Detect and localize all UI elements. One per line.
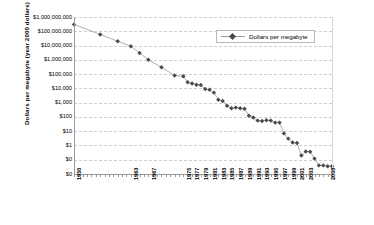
x-axis-tick — [100, 174, 101, 177]
y-axis-line — [74, 17, 75, 175]
x-axis-tick — [192, 174, 193, 177]
x-axis-tick-label: 1995 — [273, 168, 279, 180]
x-axis-tick — [201, 174, 202, 177]
x-axis-tick-label: 1985 — [229, 168, 235, 180]
y-axis-tick-label: $10 — [4, 128, 72, 134]
plot-right-border — [332, 17, 333, 175]
y-axis-tick-label: $0 — [4, 171, 72, 177]
data-point-marker — [216, 98, 220, 102]
x-axis-tick-label: 1997 — [282, 168, 288, 180]
y-axis-tick-label: $1,000,000,000 — [4, 14, 72, 20]
x-axis-tick-label: 1967 — [151, 168, 157, 180]
x-axis-tick — [253, 174, 254, 177]
x-axis-tick-label: 1983 — [221, 168, 227, 180]
x-axis-tick — [166, 174, 167, 177]
data-point-marker — [238, 106, 242, 110]
x-axis-tick — [179, 174, 180, 177]
x-axis-tick — [161, 174, 162, 177]
data-point-marker — [116, 39, 120, 43]
x-axis-tick — [328, 174, 329, 177]
legend: Dollars per megabyte — [216, 30, 315, 43]
x-axis-tick — [83, 174, 84, 177]
x-axis-tick — [315, 174, 316, 177]
x-axis-tick-label: 2001 — [299, 168, 305, 180]
x-axis-tick — [262, 174, 263, 177]
data-point-marker — [269, 118, 273, 122]
x-axis-tick-label: 1981 — [212, 168, 218, 180]
x-axis-tick — [118, 174, 119, 177]
x-axis-tick — [319, 174, 320, 177]
x-axis-tick — [96, 174, 97, 177]
x-axis-tick — [140, 174, 141, 177]
data-point-marker — [264, 118, 268, 122]
x-axis-tick-label: 1963 — [133, 168, 139, 180]
data-point-marker — [98, 32, 102, 36]
data-point-marker — [207, 88, 211, 92]
x-axis-tick-label: 1979 — [203, 168, 209, 180]
x-axis-tick — [170, 174, 171, 177]
data-point-marker — [172, 73, 176, 77]
x-axis-tick — [236, 174, 237, 177]
y-axis-tick-labels: $1,000,000,000$100,000,000$10,000,000$1,… — [0, 17, 72, 175]
x-axis-tick — [280, 174, 281, 177]
legend-label: Dollars per megabyte — [249, 33, 308, 40]
x-axis-tick — [227, 174, 228, 177]
data-point-marker — [212, 90, 216, 94]
y-axis-tick-label: $100,000 — [4, 71, 72, 77]
y-axis-tick-label: $10,000,000 — [4, 42, 72, 48]
data-point-marker — [277, 120, 281, 124]
x-axis-tick-label: 1975 — [186, 168, 192, 180]
data-point-marker — [247, 114, 251, 118]
data-point-marker — [234, 105, 238, 109]
x-axis-tick — [271, 174, 272, 177]
x-axis-tick — [210, 174, 211, 177]
x-axis-tick-label: 1987 — [238, 168, 244, 180]
data-point-marker — [159, 65, 163, 69]
x-axis-tick-label: 1993 — [264, 168, 270, 180]
x-axis-tick-label: 1977 — [194, 168, 200, 180]
data-point-marker — [229, 106, 233, 110]
x-axis-tick-label: 1989 — [247, 168, 253, 180]
x-axis-tick — [218, 174, 219, 177]
x-axis-tick — [122, 174, 123, 177]
x-axis-tick — [245, 174, 246, 177]
x-axis-tick-label: 1991 — [256, 168, 262, 180]
x-axis-tick — [105, 174, 106, 177]
y-axis-tick-label: $1 — [4, 142, 72, 148]
diamond-marker-icon — [229, 33, 236, 40]
x-axis-tick — [113, 174, 114, 177]
x-axis-tick-label: 2003 — [308, 168, 314, 180]
data-point-marker — [295, 141, 299, 145]
data-point-marker — [308, 150, 312, 154]
data-point-marker — [312, 156, 316, 160]
x-axis-tick — [131, 174, 132, 177]
data-point-marker — [321, 163, 325, 167]
x-axis-tick-label: 2008 — [330, 168, 336, 180]
x-axis-tick — [87, 174, 88, 177]
x-axis-tick — [148, 174, 149, 177]
x-axis-tick — [74, 174, 75, 177]
x-axis-tick — [109, 174, 110, 177]
series-line — [74, 24, 332, 166]
y-axis-tick-label: $10,000 — [4, 85, 72, 91]
x-axis-tick — [323, 174, 324, 177]
x-axis-tick — [288, 174, 289, 177]
data-point-marker — [194, 83, 198, 87]
x-axis-tick — [144, 174, 145, 177]
legend-marker-swatch — [221, 33, 245, 40]
data-point-marker — [273, 120, 277, 124]
data-point-marker — [260, 119, 264, 123]
x-axis-tick — [175, 174, 176, 177]
x-axis-tick — [126, 174, 127, 177]
data-point-marker — [242, 107, 246, 111]
y-axis-tick-label: $100,000,000 — [4, 28, 72, 34]
chart-container: Dollars per megabyte (year 2000 dollars)… — [0, 0, 374, 225]
x-axis-tick — [297, 174, 298, 177]
y-axis-tick-label: $1,000,000 — [4, 56, 72, 62]
x-axis-tick — [91, 174, 92, 177]
y-axis-tick-label: $1,000 — [4, 99, 72, 105]
data-point-marker — [317, 163, 321, 167]
y-axis-tick-label: $100 — [4, 113, 72, 119]
x-axis-tick-label: 1950 — [76, 168, 82, 180]
data-point-marker — [190, 81, 194, 85]
